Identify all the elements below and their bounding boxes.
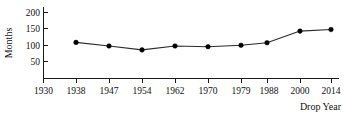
line-chart: 200 150 100 50 Months 1930 1938 1947 195… [0, 0, 346, 129]
chart-plot-area: 200 150 100 50 Months 1930 1938 1947 195… [0, 0, 346, 129]
x-axis-title: Drop Year [300, 101, 342, 112]
data-point-1947 [107, 44, 112, 49]
y-axis-ticks [44, 12, 49, 62]
series-markers-months [74, 27, 334, 52]
y-tick-label-200: 200 [26, 8, 41, 18]
y-tick-label-100: 100 [26, 41, 41, 51]
x-tick-label-2000: 2000 [291, 86, 310, 96]
data-point-2000 [298, 29, 303, 34]
x-tick-label-1962: 1962 [166, 86, 185, 96]
x-axis-ticks [44, 79, 332, 84]
data-point-1962 [173, 44, 178, 49]
x-tick-label-2014: 2014 [322, 86, 341, 96]
data-point-1954 [140, 48, 145, 53]
series-line-months [76, 30, 331, 50]
x-tick-label-1954: 1954 [133, 86, 152, 96]
data-point-1970 [206, 44, 211, 49]
data-point-2014 [329, 27, 334, 32]
x-tick-label-1947: 1947 [100, 86, 119, 96]
data-point-1938 [74, 40, 79, 45]
data-point-1988 [265, 40, 270, 45]
x-tick-label-1930: 1930 [34, 86, 53, 96]
y-tick-label-150: 150 [26, 24, 41, 34]
x-tick-label-1979: 1979 [232, 86, 251, 96]
y-tick-label-50: 50 [31, 57, 41, 67]
x-tick-label-1988: 1988 [260, 86, 279, 96]
data-point-1979 [239, 43, 244, 48]
x-tick-label-1970: 1970 [199, 86, 218, 96]
x-tick-label-1938: 1938 [67, 86, 86, 96]
y-axis-title: Months [3, 28, 14, 59]
